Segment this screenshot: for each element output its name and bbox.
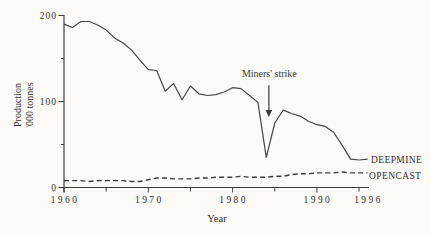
x-tick-label: 1970 [135, 195, 164, 205]
y-tick-label: 0 [51, 183, 57, 193]
axis-ticks [59, 16, 360, 193]
chart-svg: 010020019601970198019901996 Miners' stri… [0, 0, 431, 236]
series-label-opencast: OPENCAST [369, 171, 421, 181]
x-tick-label: 1980 [219, 195, 248, 205]
x-tick-label: 1960 [51, 195, 80, 205]
axes [64, 15, 369, 193]
x-end-tick-label: 1996 [354, 195, 383, 205]
series-line-opencast [64, 172, 368, 182]
y-axis-title-line1: Production [12, 83, 23, 127]
x-tick-label: 1990 [304, 195, 333, 205]
axis-tick-labels: 010020019601970198019901996 [40, 11, 383, 205]
data-series-lines [64, 22, 368, 182]
annotation-arrow-head-icon [266, 110, 273, 117]
y-tick-label: 100 [40, 97, 57, 107]
y-tick-label: 200 [40, 11, 57, 21]
series-label-deepmine: DEEPMINE [371, 155, 422, 165]
production-line-chart: 010020019601970198019901996 Miners' stri… [0, 0, 431, 236]
y-axis-title-line2: '000 tonnes [24, 82, 35, 128]
x-axis-title: Year [207, 213, 227, 224]
series-line-deepmine [64, 22, 368, 161]
annotation: Miners' strike [242, 68, 297, 117]
annotation-text: Miners' strike [242, 68, 297, 79]
